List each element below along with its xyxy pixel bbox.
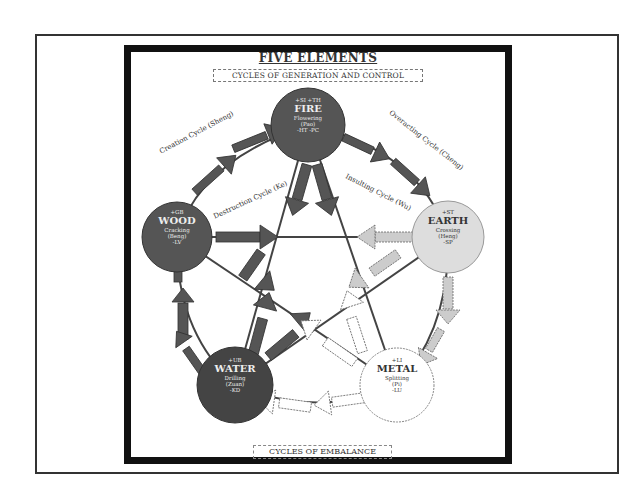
wood-node-label: +GB WOOD Cracking (Beng) -LV [142,209,212,246]
earth-node-label: +ST EARTH Crossing (Heng) -SP [412,209,484,246]
pentagram-lines [177,125,448,385]
metal-name: METAL [360,363,434,375]
imbalance-label: CYCLES OF EMBALANCE [253,445,392,459]
earth-name: EARTH [412,215,484,227]
fire-name: FIRE [271,103,345,115]
fire-node-label: +SI +TH FIRE Flowering (Pao) -HT -PC [271,97,345,134]
destruction-arrows [216,163,343,360]
water-name: WATER [197,363,273,375]
diagram-title: FIVE ELEMENTS [124,51,512,65]
water-node-label: +UB WATER Drilling (Zuan) -KD [197,357,273,394]
wood-name: WOOD [142,215,212,227]
metal-node-label: +LI METAL Splitting (Pi) -LU [360,357,434,394]
diagram-subtitle: CYCLES OF GENERATION AND CONTROL [213,69,423,82]
